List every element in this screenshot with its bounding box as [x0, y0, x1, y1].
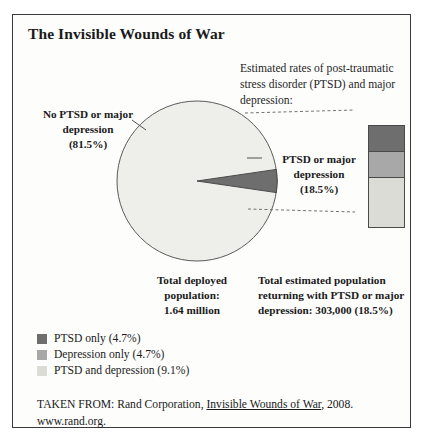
total-estimated-line2: returning with PTSD or major	[258, 288, 424, 303]
legend-swatch-ptsd-and-depression	[37, 366, 47, 376]
legend-label-ptsd-and-depression: PTSD and depression (9.1%)	[54, 365, 189, 377]
source-suffix: , 2008.	[321, 398, 353, 411]
legend-swatch-depression-only	[37, 350, 47, 360]
source-work-title: Invisible Wounds of War	[206, 398, 321, 411]
bar-segment-ptsd-and-depression	[369, 178, 404, 228]
figure-title: The Invisible Wounds of War	[28, 25, 225, 43]
total-deployed-line3: 1.64 million	[131, 303, 253, 318]
total-estimated-line3: depression: 303,000 (18.5%)	[258, 303, 424, 318]
legend-swatch-ptsd-only	[37, 334, 47, 344]
source-prefix: TAKEN FROM: Rand Corporation,	[37, 398, 206, 411]
pie-callout-disorder-line1: PTSD or major	[271, 152, 367, 167]
pie-callout-disorder-line3: (18.5%)	[271, 182, 367, 197]
pie-callout-no-disorder: No PTSD or major depression (81.5%)	[29, 107, 147, 151]
bar-segment-ptsd-only	[369, 126, 404, 151]
legend: PTSD only (4.7%) Depression only (4.7%) …	[37, 331, 189, 379]
bar-segment-depression-only	[369, 151, 404, 178]
stacked-bar-chart	[368, 125, 405, 228]
source-note: TAKEN FROM: Rand Corporation, Invisible …	[37, 397, 409, 431]
legend-item-depression-only: Depression only (4.7%)	[37, 347, 189, 362]
pie-callout-no-disorder-line3: (81.5%)	[29, 137, 147, 152]
legend-label-depression-only: Depression only (4.7%)	[54, 349, 164, 361]
pie-callout-disorder: PTSD or major depression (18.5%)	[271, 152, 367, 196]
legend-item-ptsd-and-depression: PTSD and depression (9.1%)	[37, 363, 189, 378]
pie-callout-no-disorder-line1: No PTSD or major	[29, 107, 147, 122]
total-deployed-line1: Total deployed	[131, 273, 253, 288]
total-deployed-line2: population:	[131, 288, 253, 303]
total-estimated-line1: Total estimated population	[258, 273, 424, 288]
pie-callout-disorder-line2: depression	[271, 167, 367, 182]
source-url: www.rand.org.	[37, 415, 106, 428]
pie-callout-no-disorder-line2: depression	[29, 122, 147, 137]
figure-card: The Invisible Wounds of War Estimated ra…	[12, 14, 411, 428]
total-estimated-label: Total estimated population returning wit…	[258, 273, 424, 318]
total-deployed-label: Total deployed population: 1.64 million	[131, 273, 253, 318]
legend-item-ptsd-only: PTSD only (4.7%)	[37, 331, 189, 346]
legend-label-ptsd-only: PTSD only (4.7%)	[54, 333, 141, 345]
